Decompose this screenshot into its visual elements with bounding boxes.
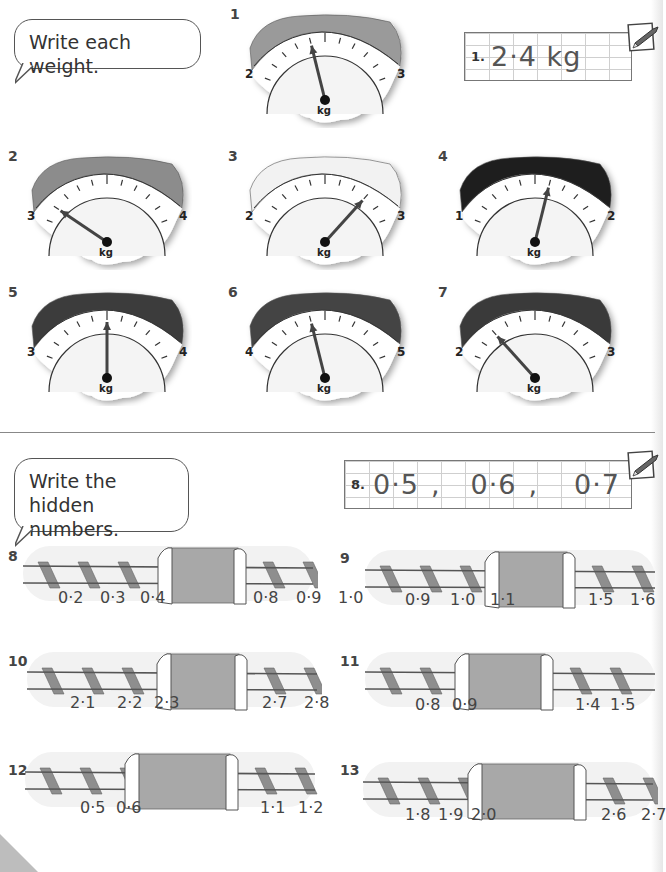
question-number: 7 bbox=[438, 284, 448, 300]
weighing-scale-3: 2 3 kg bbox=[240, 150, 410, 270]
visible-number: 1·4 bbox=[575, 695, 600, 714]
example-comma: , bbox=[528, 469, 538, 500]
visible-number: 2·7 bbox=[262, 693, 287, 712]
example-answer-box-1: 1. 2·4 kg bbox=[464, 32, 632, 81]
visible-number: 0·6 bbox=[116, 798, 141, 817]
scale-min-label: 2 bbox=[245, 67, 253, 81]
example-answer-1: 0·5 bbox=[373, 469, 419, 500]
scale-max-label: 3 bbox=[607, 345, 615, 359]
question-number: 9 bbox=[340, 550, 350, 566]
question-number: 1 bbox=[230, 6, 240, 22]
instruction-text: Write each weight. bbox=[29, 31, 131, 77]
visible-number: 0·2 bbox=[58, 588, 83, 607]
visible-number: 2·8 bbox=[304, 693, 329, 712]
visible-number: 2·0 bbox=[471, 805, 496, 824]
scale-max-label: 5 bbox=[397, 345, 405, 359]
scale-unit-label: kg bbox=[527, 383, 541, 394]
scale-unit-label: kg bbox=[99, 383, 113, 394]
scale-max-label: 4 bbox=[179, 345, 187, 359]
visible-number: 0·4 bbox=[140, 588, 165, 607]
visible-number: 1·8 bbox=[405, 805, 430, 824]
example-answer-3: 0·7 bbox=[574, 469, 620, 500]
weighing-scale-2: 3 4 kg bbox=[22, 150, 192, 270]
question-number: 5 bbox=[8, 284, 18, 300]
question-number: 13 bbox=[340, 762, 359, 778]
visible-number: 2·2 bbox=[117, 693, 142, 712]
scale-max-label: 2 bbox=[607, 209, 615, 223]
question-number: 2 bbox=[8, 148, 18, 164]
visible-number: 0·8 bbox=[415, 695, 440, 714]
scale-unit-label: kg bbox=[99, 247, 113, 258]
scale-min-label: 2 bbox=[455, 345, 463, 359]
visible-number: 2·3 bbox=[154, 693, 179, 712]
scale-min-label: 1 bbox=[455, 209, 463, 223]
visible-number: 1·1 bbox=[490, 590, 515, 609]
visible-number: 0·8 bbox=[253, 588, 278, 607]
weighing-scale-6: 4 5 kg bbox=[240, 286, 410, 406]
instruction-text: Write the hidden numbers. bbox=[29, 470, 119, 540]
train-track-9 bbox=[360, 550, 660, 620]
example-answer: 2·4 kg bbox=[491, 41, 581, 72]
visible-number: 1·1 bbox=[260, 798, 285, 817]
visible-number: 1·9 bbox=[438, 805, 463, 824]
visible-number: 0·3 bbox=[100, 588, 125, 607]
weighing-scale-7: 2 3 kg bbox=[450, 286, 620, 406]
pencil-icon bbox=[627, 21, 659, 53]
visible-number: 1·6 bbox=[630, 590, 655, 609]
example-label: 1. bbox=[471, 49, 485, 64]
scale-unit-label: kg bbox=[317, 105, 331, 116]
question-number: 8 bbox=[8, 548, 18, 564]
question-number: 3 bbox=[228, 148, 238, 164]
scale-min-label: 2 bbox=[245, 209, 253, 223]
visible-number: 0·9 bbox=[296, 588, 321, 607]
visible-number: 0·9 bbox=[452, 695, 477, 714]
scale-unit-label: kg bbox=[317, 383, 331, 394]
question-number: 11 bbox=[340, 653, 359, 669]
visible-number: 2·7 bbox=[641, 805, 666, 824]
weighing-scale-5: 3 4 kg bbox=[22, 286, 192, 406]
visible-number: 1·5 bbox=[588, 590, 613, 609]
example-label: 8. bbox=[351, 477, 365, 492]
visible-number: 0·9 bbox=[405, 590, 430, 609]
scale-max-label: 4 bbox=[179, 209, 187, 223]
question-number: 6 bbox=[228, 284, 238, 300]
example-answer-box-8: 8. 0·5 , 0·6 , 0·7 bbox=[344, 460, 632, 509]
question-number: 4 bbox=[438, 148, 448, 164]
visible-number: 2·6 bbox=[601, 805, 626, 824]
section-divider bbox=[0, 432, 655, 433]
page-corner-shade bbox=[0, 834, 38, 872]
visible-number: 2·1 bbox=[70, 693, 95, 712]
instruction-bubble-weights: Write each weight. bbox=[14, 19, 201, 69]
track-tunnel-graphic bbox=[360, 550, 660, 620]
scale-unit-label: kg bbox=[317, 247, 331, 258]
scale-min-label: 4 bbox=[245, 345, 253, 359]
visible-number: 1·5 bbox=[610, 695, 635, 714]
example-comma: , bbox=[431, 469, 441, 500]
scale-max-label: 3 bbox=[397, 209, 405, 223]
weighing-scale-4: 1 2 kg bbox=[450, 150, 620, 270]
pencil-icon bbox=[627, 449, 659, 481]
scale-min-label: 3 bbox=[27, 345, 35, 359]
visible-number: 1·0 bbox=[450, 590, 475, 609]
weighing-scale-1: 2 3 kg bbox=[240, 8, 410, 128]
page-edge-shadow bbox=[651, 0, 663, 872]
scale-min-label: 3 bbox=[27, 209, 35, 223]
visible-number: 0·5 bbox=[80, 798, 105, 817]
example-answer-2: 0·6 bbox=[471, 469, 517, 500]
scale-max-label: 3 bbox=[397, 67, 405, 81]
scale-unit-label: kg bbox=[527, 247, 541, 258]
instruction-bubble-hidden-numbers: Write the hidden numbers. bbox=[14, 458, 189, 532]
visible-number: 1·2 bbox=[298, 798, 323, 817]
